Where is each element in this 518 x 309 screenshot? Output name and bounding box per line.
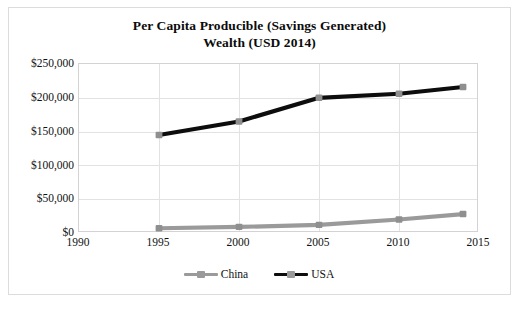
y-tick-label: $200,000 bbox=[2, 91, 74, 103]
series-plot bbox=[79, 64, 479, 233]
line-usa bbox=[159, 87, 463, 135]
x-axis-labels: 1990 1995 2000 2005 2010 2015 bbox=[0, 236, 518, 254]
chart-title-line-2: Wealth (USD 2014) bbox=[9, 34, 510, 51]
y-axis-labels: $250,000 $200,000 $150,000 $100,000 $50,… bbox=[0, 0, 74, 309]
series-usa bbox=[156, 84, 467, 138]
chart-title: Per Capita Producible (Savings Generated… bbox=[9, 17, 510, 51]
legend-entry-usa[interactable]: USA bbox=[274, 268, 334, 280]
chart-title-line-1: Per Capita Producible (Savings Generated… bbox=[9, 17, 510, 34]
caption-text bbox=[10, 301, 510, 309]
data-point-marker bbox=[316, 95, 323, 101]
data-point-marker bbox=[460, 211, 467, 217]
legend-entry-china[interactable]: China bbox=[184, 268, 248, 280]
y-tick-label: $250,000 bbox=[2, 57, 74, 69]
legend-swatch-china-icon bbox=[184, 270, 218, 279]
data-point-marker bbox=[396, 91, 403, 97]
data-point-marker bbox=[156, 225, 163, 231]
legend-label-china: China bbox=[221, 268, 248, 280]
figure-container: Per Capita Producible (Savings Generated… bbox=[0, 0, 518, 309]
data-point-marker bbox=[236, 224, 243, 230]
data-point-marker bbox=[156, 132, 163, 138]
x-tick-label: 2010 bbox=[368, 236, 428, 248]
plot-area bbox=[78, 63, 478, 232]
x-tick-label: 1995 bbox=[128, 236, 188, 248]
data-point-marker bbox=[236, 118, 243, 124]
legend-label-usa: USA bbox=[311, 268, 334, 280]
line-china bbox=[159, 214, 463, 228]
y-tick-label: $150,000 bbox=[2, 125, 74, 137]
data-point-marker bbox=[396, 216, 403, 222]
x-tick-label: 2015 bbox=[448, 236, 508, 248]
chart-legend: China USA bbox=[0, 268, 518, 280]
x-tick-label: 2000 bbox=[208, 236, 268, 248]
y-tick-label: $100,000 bbox=[2, 159, 74, 171]
x-tick-label: 2005 bbox=[288, 236, 348, 248]
data-point-marker bbox=[460, 84, 467, 90]
x-tick-label: 1990 bbox=[48, 236, 108, 248]
data-point-marker bbox=[316, 222, 323, 228]
y-tick-label: $50,000 bbox=[2, 192, 74, 204]
series-china bbox=[156, 211, 467, 232]
legend-swatch-usa-icon bbox=[274, 270, 308, 279]
